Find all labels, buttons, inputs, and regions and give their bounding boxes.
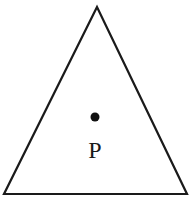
diagram-canvas: P — [0, 0, 190, 201]
point-p-dot — [91, 113, 100, 122]
point-p-label: P — [88, 137, 101, 163]
triangle — [4, 7, 187, 194]
